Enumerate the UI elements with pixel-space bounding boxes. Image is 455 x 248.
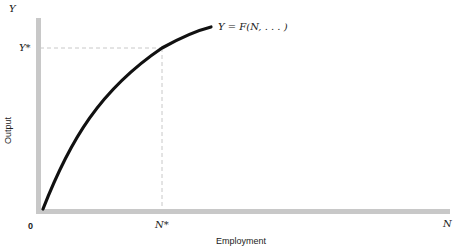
chart-canvas: [0, 0, 455, 248]
y-axis-title: Output: [3, 117, 13, 144]
production-function-curve: [43, 27, 211, 209]
x-axis: [36, 209, 450, 214]
production-function-chart: Y Y* Output 0 N* N Employment Y = F(N, .…: [0, 0, 455, 248]
n-star-label: N*: [155, 219, 169, 230]
y-star-label: Y*: [19, 42, 31, 53]
y-axis-symbol: Y: [9, 3, 16, 14]
y-axis: [36, 18, 41, 214]
x-axis-title: Employment: [216, 236, 266, 246]
origin-label: 0: [28, 221, 33, 231]
curve-label: Y = F(N, . . . ): [218, 21, 288, 32]
x-axis-symbol: N: [443, 218, 452, 229]
